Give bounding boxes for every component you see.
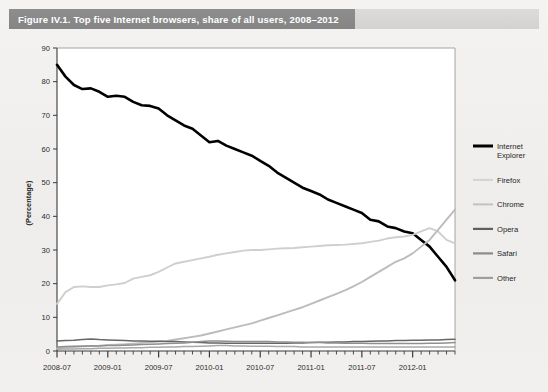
x-axis-tick-label: 2009-01: [94, 363, 122, 372]
x-axis-tick-label: 2008-07: [43, 363, 71, 372]
y-axis-tick-label: 80: [42, 77, 50, 86]
y-axis-tick-label: 0: [46, 347, 50, 356]
browser-share-line-chart: 0102030405060708090 2008-072009-012009-0…: [0, 33, 548, 392]
y-axis-title: (Percentage): [24, 180, 33, 225]
legend-label-continued: Explorer: [497, 151, 526, 160]
figure-page: Figure IV.1. Top five Internet browsers,…: [0, 0, 548, 392]
y-axis-tick-label: 10: [42, 313, 50, 322]
figure-title: Figure IV.1. Top five Internet browsers,…: [9, 14, 339, 25]
y-axis-tick-label: 20: [42, 279, 50, 288]
figure-title-band: Figure IV.1. Top five Internet browsers,…: [9, 9, 355, 29]
figure-title-band-filler: [355, 9, 539, 29]
chart-legend: InternetExplorerFirefoxChromeOperaSafari…: [473, 142, 526, 283]
legend-label: Internet: [497, 142, 524, 151]
x-axis-tick-label: 2010-07: [246, 363, 274, 372]
plot-background: [57, 48, 455, 351]
y-axis-tick-label: 70: [42, 111, 50, 120]
x-axis-tick-label: 2011-01: [297, 363, 324, 372]
legend-label: Opera: [497, 225, 519, 234]
y-axis-tick-label: 40: [42, 212, 50, 221]
legend-label: Firefox: [497, 176, 520, 185]
legend-label: Other: [497, 274, 516, 283]
legend-label: Safari: [497, 249, 517, 258]
y-axis-tick-label: 90: [42, 44, 50, 53]
legend-label: Chrome: [497, 200, 524, 209]
x-axis-tick-label: 2011-07: [348, 363, 375, 372]
x-axis-tick-label: 2012-01: [399, 363, 427, 372]
y-axis-tick-label: 30: [42, 246, 50, 255]
x-axis: 2008-072009-012009-072010-012010-072011-…: [43, 351, 455, 372]
y-axis-tick-label: 60: [42, 145, 50, 154]
y-axis-tick-label: 50: [42, 178, 50, 187]
x-axis-tick-label: 2009-07: [145, 363, 173, 372]
x-axis-tick-label: 2010-01: [195, 363, 223, 372]
y-axis: 0102030405060708090: [42, 44, 57, 356]
chart-container: 0102030405060708090 2008-072009-012009-0…: [0, 33, 548, 392]
